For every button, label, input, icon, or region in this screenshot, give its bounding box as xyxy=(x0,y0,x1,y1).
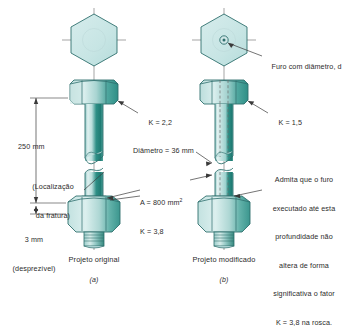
area-exponent: 2 xyxy=(180,197,183,203)
sublabel-b: (b) xyxy=(176,275,272,284)
panel-b-drawing xyxy=(190,8,268,250)
note-line-2: executado até esta xyxy=(259,204,349,214)
leader-diameter-36 xyxy=(196,152,212,163)
thread-line-1: 3 mm xyxy=(2,235,66,245)
note-line-1: Admita que o furo xyxy=(259,175,349,185)
label-hole-depth-note: Admita que o furo executado até esta pro… xyxy=(259,156,349,330)
label-k-1-5: K = 1,5 xyxy=(270,108,302,137)
bolt-shaft-upper-b xyxy=(215,104,233,164)
hex-head-side-view-a xyxy=(70,80,118,104)
sublabel-a: (a) xyxy=(46,275,142,284)
k-thread-line: K = 3,8 xyxy=(140,227,183,237)
label-diametro-36mm: Diâmetro = 36 mm xyxy=(133,146,194,156)
label-area-and-k: A = 800 mm2 K = 3,8 xyxy=(140,178,183,255)
hex-nut-b xyxy=(198,196,250,232)
threaded-stub-b xyxy=(214,232,234,248)
label-250mm: 250 mm xyxy=(18,142,45,152)
note-line-6: K = 3,8 na rosca. xyxy=(259,318,349,328)
caption-projeto-original: Projeto original xyxy=(46,255,142,265)
label-furo-com-diametro: Furo com diâmetro, d xyxy=(263,52,342,81)
area-line: A = 800 mm2 xyxy=(140,197,183,208)
threaded-stub-a xyxy=(84,232,104,248)
fracture-line-1: (Localização xyxy=(22,182,84,192)
label-k-2-2: K = 2,2 xyxy=(140,108,172,137)
note-line-3: profundidade não xyxy=(259,232,349,242)
bolt-shaft-lower-b xyxy=(215,168,233,198)
caption-projeto-modificado: Projeto modificado xyxy=(176,255,272,265)
note-line-5: significativa o fator xyxy=(259,289,349,299)
hex-head-top-view-a xyxy=(71,14,117,66)
thread-line-2: (desprezível) xyxy=(2,264,66,274)
note-line-4: altera de forma xyxy=(259,261,349,271)
bolt-shaft-upper-a xyxy=(85,104,103,164)
hex-head-side-view-b xyxy=(200,80,248,104)
center-hole-dot xyxy=(223,39,226,42)
bolt-shaft-lower-a xyxy=(85,168,103,198)
